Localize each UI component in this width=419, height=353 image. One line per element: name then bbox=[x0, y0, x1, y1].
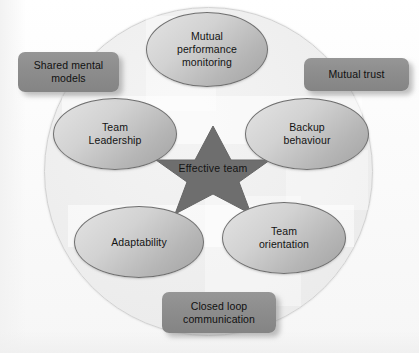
box-label: Shared mentalmodels bbox=[28, 59, 110, 85]
node-team-orientation[interactable]: Teamorientation bbox=[222, 202, 346, 274]
node-adaptability[interactable]: Adaptability bbox=[74, 206, 204, 278]
node-mutual-performance-monitoring[interactable]: Mutualperformancemonitoring bbox=[146, 12, 268, 87]
diagram-canvas: Effective team Mutualperformancemonitori… bbox=[0, 0, 419, 353]
node-team-leadership[interactable]: TeamLeadership bbox=[53, 98, 177, 170]
node-label: Backupbehaviour bbox=[277, 121, 336, 147]
node-label: Teamorientation bbox=[253, 225, 315, 251]
box-label: Mutual trust bbox=[322, 68, 390, 81]
box-closed-loop-communication[interactable]: Closed loopcommunication bbox=[162, 292, 276, 333]
node-label: Adaptability bbox=[105, 236, 172, 249]
effective-team-label: Effective team bbox=[152, 162, 274, 174]
node-label: TeamLeadership bbox=[83, 121, 148, 147]
box-mutual-trust[interactable]: Mutual trust bbox=[304, 58, 409, 91]
box-shared-mental-models[interactable]: Shared mentalmodels bbox=[18, 52, 119, 92]
box-label: Closed loopcommunication bbox=[177, 300, 261, 326]
node-backup-behaviour[interactable]: Backupbehaviour bbox=[245, 98, 369, 170]
node-label: Mutualperformancemonitoring bbox=[171, 30, 243, 69]
